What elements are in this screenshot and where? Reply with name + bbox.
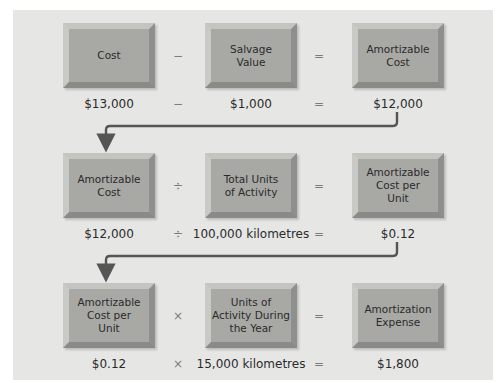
box-label: Amortizable Cost	[77, 173, 140, 199]
value-cost-per-unit: $0.12	[63, 357, 155, 371]
value-amortizable-cost: $12,000	[63, 227, 155, 241]
equals-operator: =	[309, 49, 329, 63]
multiply-operator: ×	[168, 357, 188, 371]
equals-operator: =	[309, 227, 329, 241]
equals-operator: =	[309, 357, 329, 371]
box-amortizable-cost-per-unit: Amortizable Cost per Unit	[352, 153, 444, 218]
value-cost: $13,000	[63, 97, 155, 111]
value-cost-per-unit: $0.12	[352, 227, 444, 241]
box-amortizable-cost-per-unit: Amortizable Cost per Unit	[63, 283, 155, 348]
box-units-of-activity-during-year: Units of Activity During the Year	[205, 283, 297, 348]
value-units-during-year: 15,000 kilometres	[188, 357, 314, 371]
box-amortization-expense: Amortization Expense	[352, 283, 444, 348]
box-salvage-value: Salvage Value	[205, 23, 297, 88]
box-label: Total Units of Activity	[224, 173, 279, 199]
connector-arrow-1	[106, 112, 397, 143]
value-total-units: 100,000 kilometres	[188, 227, 314, 241]
box-cost: Cost	[63, 23, 155, 88]
box-label: Amortizable Cost per Unit	[77, 296, 140, 335]
minus-operator: −	[168, 49, 188, 63]
equals-operator: =	[309, 179, 329, 193]
box-label: Units of Activity During the Year	[212, 296, 290, 335]
multiply-operator: ×	[168, 309, 188, 323]
box-amortizable-cost: Amortizable Cost	[352, 23, 444, 88]
minus-operator: −	[168, 97, 188, 111]
divide-operator: ÷	[168, 227, 188, 241]
connector-row1-to-row2	[359, 113, 397, 143]
box-total-units-of-activity: Total Units of Activity	[205, 153, 297, 218]
value-amortizable-cost: $12,000	[352, 97, 444, 111]
box-label: Salvage Value	[230, 43, 272, 69]
equals-operator: =	[309, 97, 329, 111]
box-amortizable-cost: Amortizable Cost	[63, 153, 155, 218]
value-salvage: $1,000	[205, 97, 297, 111]
box-label: Amortizable Cost per Unit	[366, 166, 429, 205]
equals-operator: =	[309, 309, 329, 323]
value-amortization-expense: $1,800	[352, 357, 444, 371]
box-label: Amortization Expense	[364, 303, 431, 329]
connector-arrow-2	[106, 242, 397, 273]
box-label: Cost	[97, 49, 120, 62]
box-label: Amortizable Cost	[366, 43, 429, 69]
divide-operator: ÷	[168, 179, 188, 193]
